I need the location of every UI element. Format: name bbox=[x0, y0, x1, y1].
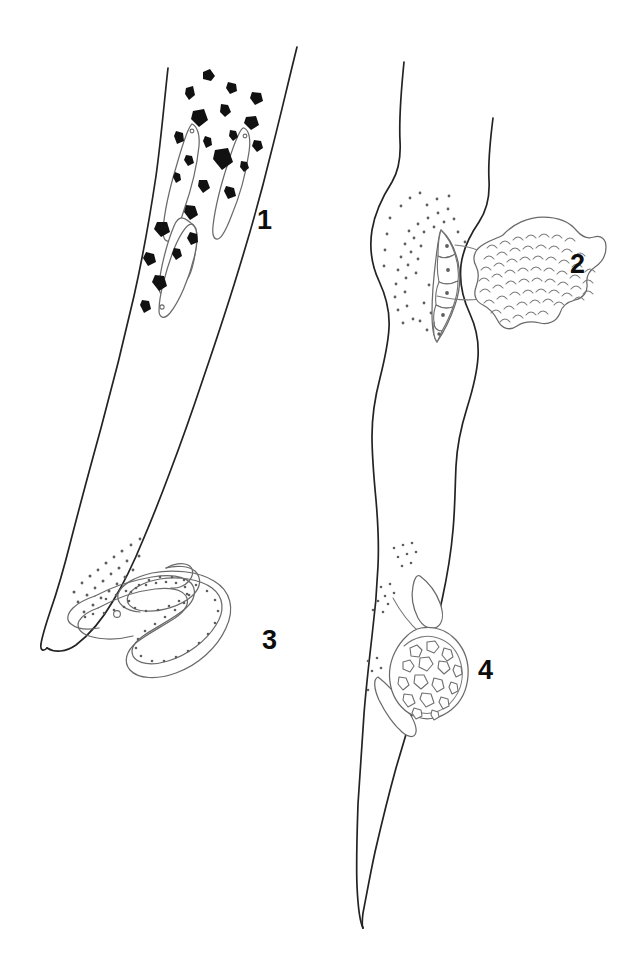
plate-background bbox=[0, 0, 644, 975]
figure-4-label: 4 bbox=[478, 655, 493, 685]
fig1-canker-lower-pore bbox=[160, 305, 164, 309]
fig1-canker-upper-left-pore bbox=[190, 129, 194, 133]
figure-2-label: 2 bbox=[570, 249, 585, 279]
plate-canvas: 1 bbox=[0, 0, 644, 975]
figure-1-label: 1 bbox=[257, 205, 272, 235]
illustration-plate: 1 bbox=[0, 0, 644, 975]
fig3-stalk-pore bbox=[114, 611, 121, 618]
fig1-canker-upper-right-pore bbox=[243, 134, 247, 138]
figure-3-label: 3 bbox=[262, 625, 277, 655]
